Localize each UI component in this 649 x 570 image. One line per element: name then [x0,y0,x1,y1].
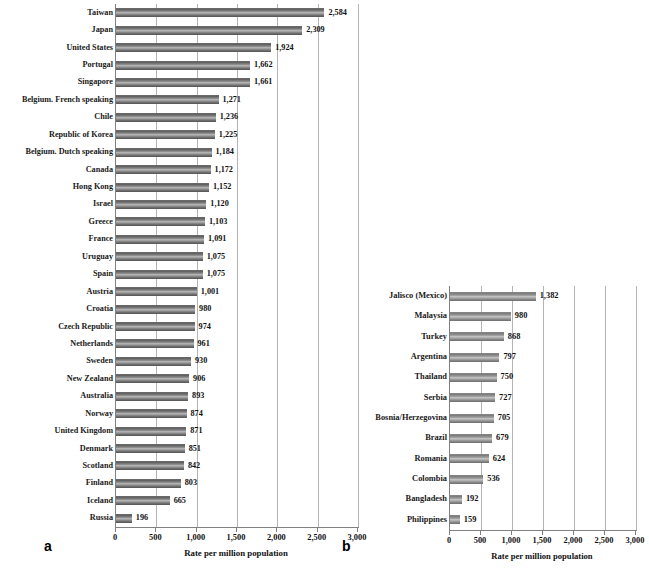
bar-value-label: 961 [198,340,210,348]
bar [116,183,209,192]
x-tick-mark [573,531,574,535]
chart-panel-a: Taiwan2,584Japan2,309United States1,924P… [0,0,372,570]
category-label: Colombia [412,475,447,483]
category-label: Scotland [83,462,113,470]
x-tick-mark [604,531,605,535]
category-label: Japan [92,26,113,34]
category-label: France [88,235,113,243]
category-label: Thailand [414,373,447,381]
x-axis-ticks-b: 05001,0001,5002,0002,5003,000 [449,531,635,545]
x-tick-label: 3,000 [626,537,645,545]
category-label: Argentina [411,353,447,361]
bar-row: Norway874 [116,405,358,422]
category-label: Netherlands [70,340,113,348]
category-label: Uruguay [82,253,113,261]
bar-value-label: 980 [515,312,528,320]
bar [116,270,203,279]
bar [116,61,250,70]
bar [116,514,132,523]
bar [116,148,212,157]
bar-value-label: 192 [466,495,479,503]
panel-letter-b: b [342,538,351,554]
bar-row: Singapore1,661 [116,74,358,91]
category-label: Taiwan [87,9,113,17]
bar-row: Hong Kong1,152 [116,178,358,195]
bar-row: Colombia536 [450,469,636,489]
category-label: Sweden [86,357,113,365]
bar-value-label: 1,120 [210,200,228,208]
bar [116,113,216,122]
bar-value-label: 705 [498,414,511,422]
bar-value-label: 624 [493,455,506,463]
bar-value-label: 665 [174,497,186,505]
chart-panel-b: Jalisco (Mexico)1,382Malaysia980Turkey86… [372,272,649,570]
x-tick-label: 1,500 [533,537,552,545]
bar-value-label: 851 [189,445,201,453]
bar-row: Bosnia/Herzegovina705 [450,408,636,428]
bar [116,444,185,453]
gridline [636,286,637,530]
bar-row: Chile1,236 [116,109,358,126]
category-label: Belgium. French speaking [22,96,113,104]
bar [450,515,460,524]
bar-value-label: 1,382 [540,292,559,300]
category-label: Israel [93,200,113,208]
bar-value-label: 1,075 [207,270,225,278]
bar-row: Australia893 [116,388,358,405]
x-tick-mark [480,531,481,535]
category-label: Singapore [78,78,113,86]
bar-value-label: 974 [199,323,211,331]
bar-row: Finland803 [116,475,358,492]
bar [450,292,536,301]
bar-value-label: 930 [195,357,207,365]
bar-value-label: 196 [136,514,148,522]
bar-row: Romania624 [450,449,636,469]
bar-value-label: 727 [499,394,512,402]
bar-rows-a: Taiwan2,584Japan2,309United States1,924P… [116,4,358,527]
category-label: Bangladesh [406,495,447,503]
bar-value-label: 868 [508,333,521,341]
bar-row: Brazil679 [450,428,636,448]
panel-letter-a: a [44,538,52,554]
bar [450,373,497,382]
bar-value-label: 1,152 [213,183,231,191]
x-axis-ticks-a: 05001,0001,5002,0002,5003,000 [115,528,357,542]
category-label: Serbia [424,394,447,402]
bar-row: Spain1,075 [116,266,358,283]
category-label: Republic of Korea [49,131,113,139]
bar-value-label: 797 [503,353,516,361]
category-label: Brazil [425,434,447,442]
bar [116,78,250,87]
bar-row: Israel1,120 [116,196,358,213]
bar [116,235,204,244]
x-tick-label: 2,500 [307,534,326,542]
category-label: Russia [90,514,113,522]
x-axis-title-b: Rate per million population [449,551,635,561]
bar-row: Denmark851 [116,440,358,457]
bar [450,393,495,402]
bar-value-label: 874 [191,410,203,418]
category-label: United Kingdom [55,427,113,435]
bar-row: Thailand750 [450,367,636,387]
bar [116,200,206,209]
bar [116,479,181,488]
bar-value-label: 1,075 [207,253,225,261]
bar-row: Canada1,172 [116,161,358,178]
bar-row: Sweden930 [116,353,358,370]
bar [116,95,219,104]
x-tick-label: 2,000 [267,534,286,542]
bar-row: Greece1,103 [116,213,358,230]
x-tick-label: 2,500 [595,537,614,545]
bar-row: Croatia980 [116,300,358,317]
bar-value-label: 1,662 [254,61,272,69]
x-tick-mark [115,528,116,532]
bar-row: Bangladesh192 [450,489,636,509]
bar-value-label: 2,309 [306,26,324,34]
bar [450,312,511,321]
category-label: Chile [94,113,113,121]
category-label: Iceland [87,497,113,505]
category-label: Portugal [83,61,113,69]
category-label: United States [66,44,113,52]
bar [116,409,187,418]
bar [116,130,215,139]
